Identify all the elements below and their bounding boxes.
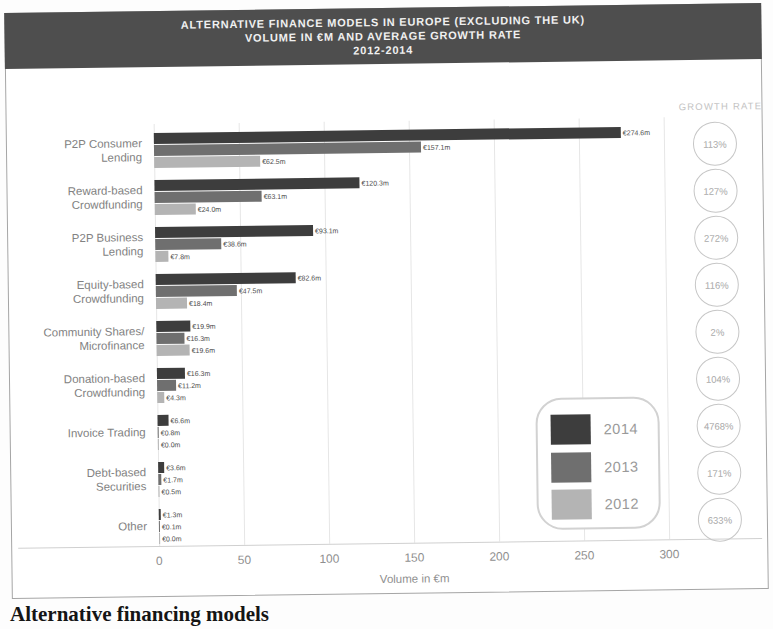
bar-value-label: €82.6m	[298, 274, 321, 281]
bar-value-label: €47.5m	[239, 287, 262, 294]
bar-value-label: €7.8m	[170, 253, 190, 260]
bar-2012	[154, 156, 260, 168]
legend: 201420132012	[535, 396, 661, 530]
bar-value-label: €38.6m	[223, 240, 246, 247]
bar-value-label: €0.0m	[161, 441, 181, 448]
bar-value-label: €19.9m	[192, 322, 215, 329]
bar-2012	[155, 203, 196, 215]
x-tick-label: 100	[319, 552, 339, 566]
bar-2014	[158, 462, 164, 473]
bar-value-label: €0.0m	[162, 535, 182, 542]
bar-value-label: €3.6m	[166, 464, 186, 471]
bar-value-label: €0.1m	[162, 523, 182, 530]
growth-rate-column-header: GROWTH RATE	[679, 100, 763, 112]
bar-value-label: €16.3m	[186, 334, 209, 341]
category-label: Other	[0, 519, 147, 535]
bar-2013	[156, 285, 237, 297]
bar-2012	[158, 439, 159, 450]
category-label: Community Shares/Microfinance	[0, 324, 145, 354]
bar-value-label: €4.3m	[166, 394, 186, 401]
growth-rate-circle: 272%	[694, 215, 739, 260]
x-tick-label: 150	[404, 551, 424, 565]
growth-rate-circle: 171%	[697, 450, 742, 495]
bar-2014	[157, 368, 185, 379]
grid-line	[409, 121, 416, 543]
bar-2012	[159, 533, 160, 544]
legend-label-2014: 2014	[604, 421, 638, 437]
bar-value-label: €120.3m	[361, 179, 388, 186]
bar-2012	[155, 251, 168, 262]
bar-value-label: €16.3m	[187, 369, 210, 376]
x-tick-label: 50	[238, 553, 252, 567]
category-label: P2P BusinessLending	[0, 230, 143, 260]
bar-2013	[159, 521, 160, 532]
x-axis-line	[18, 538, 762, 549]
bar-2014	[156, 272, 296, 285]
bar-value-label: €18.4m	[189, 299, 212, 306]
legend-swatch-2012	[551, 489, 591, 520]
growth-rate-circle: 104%	[696, 356, 741, 401]
bar-2013	[155, 238, 221, 250]
category-label: Donation-basedCrowdfunding	[0, 371, 145, 401]
bar-2012	[157, 345, 190, 356]
chart-title-bar: ALTERNATIVE FINANCE MODELS IN EUROPE (EX…	[4, 3, 762, 69]
bar-2012	[158, 486, 159, 497]
x-tick-label: 300	[659, 547, 679, 561]
x-axis-title: Volume in €m	[380, 572, 450, 585]
figure: ALTERNATIVE FINANCE MODELS IN EUROPE (EX…	[4, 3, 769, 599]
legend-swatch-2013	[551, 452, 591, 483]
bar-value-label: €6.6m	[170, 417, 190, 424]
bar-2013	[154, 142, 421, 156]
page-caption: Alternative financing models	[10, 602, 269, 627]
growth-rate-circle: 113%	[693, 121, 738, 166]
growth-rate-circle: 4768%	[696, 403, 741, 448]
bar-value-label: €19.6m	[192, 346, 215, 353]
growth-rate-circle: 2%	[695, 309, 740, 354]
bar-value-label: €11.2m	[178, 381, 201, 388]
bar-value-label: €1.7m	[163, 476, 183, 483]
x-tick-label: 0	[156, 554, 163, 568]
bar-value-label: €0.5m	[161, 488, 181, 495]
grid-line	[494, 120, 501, 542]
bar-value-label: €274.6m	[623, 129, 650, 136]
bar-2014	[159, 509, 161, 520]
bar-2014	[154, 177, 359, 191]
bar-value-label: €24.0m	[198, 205, 221, 212]
bar-2014	[155, 225, 313, 238]
bar-value-label: €63.1m	[264, 192, 287, 199]
x-tick-label: 200	[489, 549, 509, 563]
legend-swatch-2014	[551, 414, 591, 445]
bar-2014	[156, 321, 190, 332]
growth-rate-circle: 127%	[693, 168, 738, 213]
category-label: Reward-basedCrowdfunding	[0, 183, 143, 213]
growth-rate-circle: 116%	[695, 262, 740, 307]
bar-value-label: €93.1m	[315, 227, 338, 234]
category-label: Debt-basedSecurities	[0, 465, 146, 495]
bar-2014	[157, 415, 168, 426]
x-tick-label: 250	[574, 548, 594, 562]
category-label: Invoice Trading	[0, 425, 146, 441]
bar-2013	[156, 333, 184, 344]
category-label: Equity-basedCrowdfunding	[0, 277, 144, 307]
category-label: P2P ConsumerLending	[0, 136, 142, 166]
bar-2012	[157, 392, 164, 403]
bar-2013	[158, 474, 161, 485]
bar-2013	[158, 427, 159, 438]
bar-value-label: €0.8m	[161, 429, 181, 436]
growth-rate-circle: 633%	[698, 497, 743, 542]
bar-value-label: €62.5m	[262, 157, 285, 164]
bar-2013	[155, 191, 262, 203]
bar-value-label: €157.1m	[423, 143, 450, 150]
legend-label-2013: 2013	[604, 458, 638, 474]
bar-2013	[157, 380, 176, 391]
grid-line	[664, 117, 671, 539]
bar-value-label: €1.3m	[163, 511, 183, 518]
legend-label-2012: 2012	[605, 496, 639, 512]
bar-2012	[156, 298, 187, 309]
